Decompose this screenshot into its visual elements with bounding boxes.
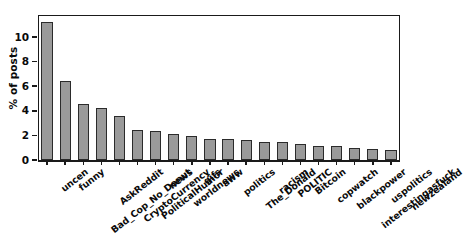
y-tick-mark: [32, 110, 37, 112]
bar: [349, 148, 360, 160]
bar: [241, 140, 252, 160]
x-tick-label: aww: [220, 166, 245, 189]
x-axis-tick-labels: uncenfunnyBad_Cop_No_DonutAskRedditCrypt…: [38, 166, 406, 230]
bar: [168, 134, 179, 160]
x-tick-mark: [227, 160, 228, 165]
bar: [96, 108, 107, 160]
y-tick-label: 2: [0, 129, 29, 141]
y-tick-mark: [32, 36, 37, 38]
bar: [385, 150, 396, 160]
y-tick-label: 8: [0, 55, 29, 67]
bar: [259, 142, 270, 160]
x-tick-mark: [390, 160, 391, 165]
bar: [222, 139, 233, 160]
bar: [114, 116, 125, 160]
x-tick-mark: [119, 160, 120, 165]
x-tick-mark: [64, 160, 65, 165]
bar: [150, 131, 161, 160]
bar-series: [38, 15, 400, 160]
bar: [277, 142, 288, 160]
x-tick-mark: [209, 160, 210, 165]
y-tick-mark: [32, 85, 37, 87]
x-tick-mark: [137, 160, 138, 165]
y-tick-mark: [32, 61, 37, 63]
x-tick-label: politics: [241, 166, 277, 198]
x-tick-mark: [173, 160, 174, 165]
y-tick-label: 6: [0, 80, 29, 92]
bar: [41, 22, 52, 160]
bar: [295, 144, 306, 160]
bar: [331, 146, 342, 160]
x-tick-mark: [155, 160, 156, 165]
bar: [78, 104, 89, 160]
bar: [60, 81, 71, 160]
bar: [186, 136, 197, 160]
x-tick-mark: [354, 160, 355, 165]
x-tick-mark: [300, 160, 301, 165]
x-tick-mark: [282, 160, 283, 165]
x-tick-mark: [101, 160, 102, 165]
y-tick-label: 10: [0, 31, 29, 43]
x-tick-mark: [318, 160, 319, 165]
bar: [132, 130, 143, 160]
bar: [313, 146, 324, 160]
x-tick-mark: [191, 160, 192, 165]
y-tick-label: 4: [0, 104, 29, 116]
x-tick-mark: [83, 160, 84, 165]
x-tick-mark: [46, 160, 47, 165]
bar: [204, 139, 215, 161]
x-tick-mark: [372, 160, 373, 165]
y-tick-mark: [32, 159, 37, 161]
x-tick-mark: [336, 160, 337, 165]
y-tick-mark: [32, 135, 37, 137]
y-tick-label: 0: [0, 154, 29, 166]
x-tick-mark: [264, 160, 265, 165]
x-tick-mark: [245, 160, 246, 165]
bar: [367, 149, 378, 160]
